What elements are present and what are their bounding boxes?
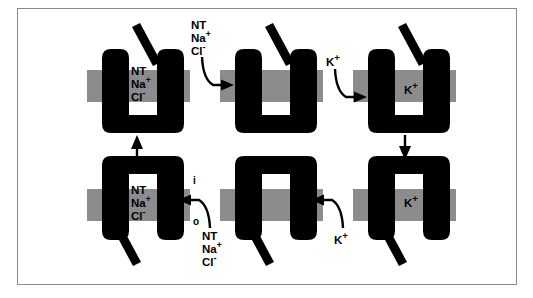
transition-1-label-nt: NT <box>191 20 206 32</box>
transition-5-label-nt: NT <box>202 231 217 243</box>
state-1-cargo-nt: NT <box>131 66 146 78</box>
state-6-cargo-nt: NT <box>131 185 146 197</box>
state-4-group <box>353 156 456 266</box>
transition-1-label-na: Na+ <box>191 33 211 45</box>
transition-1-label-cl: Cl- <box>191 46 206 58</box>
membrane-inside-label: i <box>193 176 196 186</box>
diagram-stage: NT Na+ Cl- K+ K+ NT Na+ Cl- i o NT Na+ C… <box>18 9 518 286</box>
state-3-cargo-k: K+ <box>404 81 418 97</box>
state-2-gate-arm <box>265 23 294 66</box>
transition-4-label-k: K+ <box>334 231 348 247</box>
state-1-cargo-cl: Cl- <box>131 92 146 104</box>
diagram-graphics <box>18 9 518 286</box>
state-3-gate-arm <box>398 23 427 66</box>
state-2-group <box>220 23 323 133</box>
state-6-cargo-cl: Cl- <box>131 211 146 223</box>
state-5-group <box>220 156 323 266</box>
state-1-cargo-na: Na+ <box>131 79 151 91</box>
state-3-group <box>353 23 456 133</box>
state-4-cargo-k: K+ <box>404 194 418 210</box>
figure-root: NT Na+ Cl- K+ K+ NT Na+ Cl- i o NT Na+ C… <box>0 0 533 298</box>
transition-5-label-cl: Cl- <box>202 257 217 269</box>
transition-2-label-k: K+ <box>326 53 340 69</box>
figure-frame: NT Na+ Cl- K+ K+ NT Na+ Cl- i o NT Na+ C… <box>17 8 517 285</box>
membrane-outside-label: o <box>193 217 199 227</box>
state-1-gate-arm <box>132 23 161 66</box>
state-6-cargo-na: Na+ <box>131 198 151 210</box>
transition-5-label-na: Na+ <box>202 244 222 256</box>
